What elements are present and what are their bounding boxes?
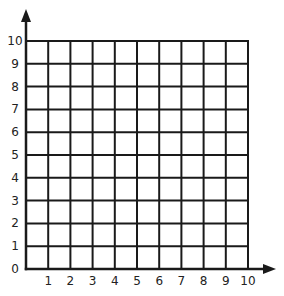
y-tick-label: 0	[11, 262, 19, 276]
axes	[21, 9, 276, 274]
y-tick-label: 8	[11, 80, 19, 94]
y-tick-label: 7	[11, 102, 19, 116]
y-tick-label: 4	[11, 171, 19, 185]
coordinate-grid: 012345678910 12345678910	[0, 0, 284, 296]
x-axis-labels: 12345678910	[44, 274, 255, 288]
x-tick-label: 8	[200, 274, 208, 288]
y-tick-label: 3	[11, 194, 19, 208]
x-tick-label: 1	[44, 274, 52, 288]
x-tick-label: 2	[67, 274, 75, 288]
x-tick-label: 3	[89, 274, 97, 288]
y-axis-arrow-icon	[21, 9, 31, 22]
x-tick-label: 7	[178, 274, 186, 288]
x-tick-label: 6	[155, 274, 163, 288]
y-tick-label: 10	[7, 34, 22, 48]
y-tick-label: 2	[11, 216, 19, 230]
x-tick-label: 9	[222, 274, 230, 288]
x-tick-label: 5	[133, 274, 141, 288]
y-tick-label: 6	[11, 125, 19, 139]
y-axis-labels: 012345678910	[7, 34, 22, 276]
grid-lines	[26, 41, 248, 269]
y-tick-label: 5	[11, 148, 19, 162]
x-axis-arrow-icon	[263, 264, 276, 274]
x-tick-label: 4	[111, 274, 119, 288]
y-tick-label: 1	[11, 239, 19, 253]
x-tick-label: 10	[240, 274, 255, 288]
y-tick-label: 9	[11, 57, 19, 71]
